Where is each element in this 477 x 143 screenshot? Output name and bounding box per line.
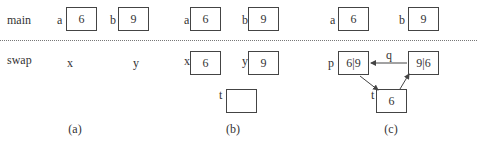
swap-arrows (0, 0, 477, 143)
arrow-t-to-q (400, 74, 409, 89)
arrow-p-to-t (360, 76, 378, 90)
